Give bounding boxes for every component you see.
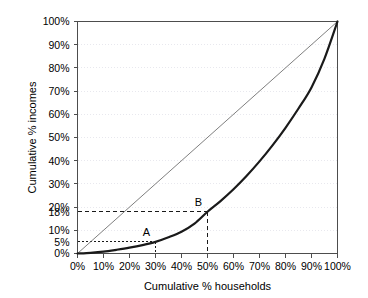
y-tick-label: 50% [48,131,69,143]
y-tick-label: 70% [48,85,69,97]
x-tick-label: 60% [223,260,244,272]
y-tick-label: 0% [54,247,69,259]
x-tick-label: 50% [197,260,218,272]
x-tick-label: 20% [119,260,140,272]
x-tick-label: 40% [171,260,192,272]
chart-canvas: 0%10%20%30%40%50%60%70%80%90%100% 0%10%2… [0,0,368,298]
x-tick-label: 70% [249,260,270,272]
x-tick-label: 80% [275,260,296,272]
x-tick-label: 30% [145,260,166,272]
x-axis-tick-labels: 0%10%20%30%40%50%60%70%80%90%100% [70,260,351,272]
x-tick-label: 10% [93,260,114,272]
y-tick-label: 100% [43,15,70,27]
y-special-label: 5% [54,236,69,248]
y-tick-label: 30% [48,178,69,190]
x-tick-label: 90% [301,260,322,272]
y-special-label: 18% [48,206,69,218]
y-tick-label: 80% [48,62,69,74]
x-tick-label: 0% [70,260,85,272]
y-axis-title: Cumulative % incomes [26,81,38,193]
lorenz-curve-chart: 0%10%20%30%40%50%60%70%80%90%100% 0%10%2… [0,0,368,298]
y-tick-label: 60% [48,108,69,120]
x-axis-title: Cumulative % households [144,280,272,292]
x-tick-label: 100% [324,260,351,272]
point-label-a: A [143,226,151,238]
y-tick-label: 40% [48,155,69,167]
y-tick-label: 10% [48,224,69,236]
point-label-b: B [195,196,202,208]
y-tick-label: 90% [48,39,69,51]
